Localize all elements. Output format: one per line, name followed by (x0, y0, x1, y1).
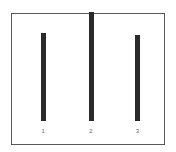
plot-area: 123 (12, 14, 164, 144)
plot-frame: 123 (11, 13, 165, 145)
bar-2 (89, 12, 94, 121)
bar-3 (135, 35, 140, 121)
chart-figure: 123 (0, 0, 176, 152)
x-tick-label-2: 2 (84, 128, 98, 135)
x-tick-label-3: 3 (130, 128, 144, 135)
bar-1 (41, 33, 46, 121)
x-tick-label-1: 1 (36, 128, 50, 135)
